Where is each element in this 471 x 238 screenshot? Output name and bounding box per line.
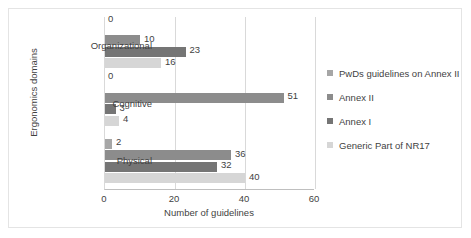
legend-swatch-icon [327,94,333,100]
chart-frame: Ergonomics domains 0102316051342363240 O… [8,8,462,228]
x-tick-60: 60 [309,193,320,204]
legend-item[interactable]: PwDs guidelines on Annex II [327,61,459,85]
x-axis-title: Number of guidelines [104,207,314,218]
x-tick-0: 0 [101,193,106,204]
bar-value-label: 36 [235,148,246,159]
bar-value-label: 0 [108,70,113,81]
y-axis-category-physical: Physical [32,155,152,166]
legend-item[interactable]: Generic Part of NR17 [327,133,459,157]
bar[interactable] [105,116,119,126]
bar-value-label: 4 [123,113,128,124]
bar-value-label: 2 [116,136,121,147]
legend-item[interactable]: Annex II [327,85,459,109]
gridline-60 [315,17,316,189]
legend-swatch-icon [327,70,333,76]
y-axis-category-cognitive: Cognitive [32,98,152,109]
bar-value-label: 16 [165,56,176,67]
legend-label: Annex II [339,92,374,103]
bar-value-label: 23 [190,44,201,55]
legend-item[interactable]: Annex I [327,109,459,133]
legend-label: Annex I [339,116,371,127]
bar-value-label: 0 [108,13,113,24]
legend-swatch-icon [327,142,333,148]
bar-value-label: 40 [249,171,260,182]
bar[interactable] [105,139,112,149]
bar[interactable] [105,58,161,68]
x-tick-20: 20 [169,193,180,204]
legend-label: Generic Part of NR17 [339,140,430,151]
bar[interactable] [105,173,245,183]
x-tick-40: 40 [239,193,250,204]
bar-value-label: 32 [221,159,232,170]
y-axis-category-organizational: Organizational [32,40,152,51]
bar-value-label: 51 [288,90,299,101]
legend-swatch-icon [327,118,333,124]
legend-label: PwDs guidelines on Annex II [339,68,459,79]
chart-legend: PwDs guidelines on Annex IIAnnex IIAnnex… [327,61,459,157]
